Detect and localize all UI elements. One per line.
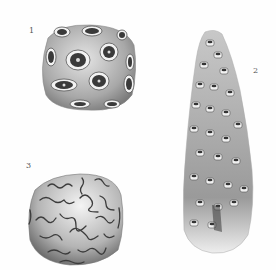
specimen-plate: 1 2 3 [0, 0, 276, 270]
coral-figure-1 [42, 25, 135, 110]
coral-figure-2 [183, 30, 253, 253]
coral-illustrations [0, 0, 276, 270]
coral-figure-3 [29, 174, 123, 265]
